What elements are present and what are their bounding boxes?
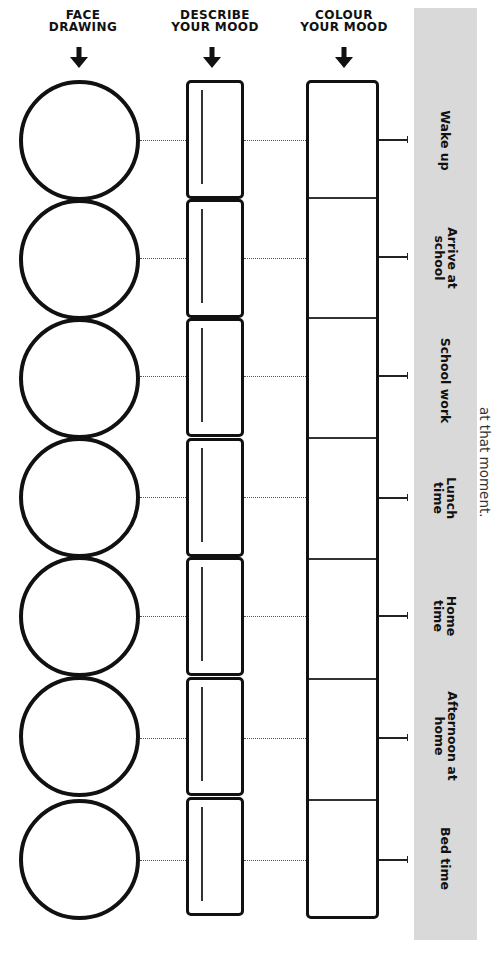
tick-line [379,256,408,258]
describe-mood-box-home-time[interactable] [186,557,244,676]
time-label-line: home [433,691,446,780]
time-label-lunch-time: Lunchtime [414,448,477,548]
down-arrow-icon [70,47,88,69]
face-drawing-circle-home-time[interactable] [19,556,140,677]
connector-line [244,616,306,617]
describe-mood-box-school-work[interactable] [186,318,244,437]
connector-line [244,140,306,141]
tick-line [379,375,408,377]
connector-line [140,258,186,259]
connector-line [140,616,186,617]
writing-line [201,90,203,184]
time-label-bed-time: Bed time [414,808,477,908]
tick-line [379,859,408,861]
colour-divider [309,678,376,680]
describe-mood-box-bed-time[interactable] [186,797,244,916]
face-drawing-circle-school-work[interactable] [19,318,140,439]
side-note-text: at that moment. [477,407,493,518]
time-label-line: Home [446,596,459,637]
face-drawing-circle-afternoon-at-home[interactable] [19,676,140,797]
time-label-line: Bed time [439,826,452,889]
connector-line [140,497,186,498]
describe-mood-box-arrive-at-school[interactable] [186,199,244,318]
header-describe-mood: DESCRIBE YOUR MOOD [156,9,274,33]
tick-line [379,497,408,499]
tick-line [379,737,408,739]
time-label-line: Afternoon at [446,691,459,780]
connector-line [140,860,186,861]
connector-line [244,860,306,861]
time-label-arrive-at-school: Arrive atschool [414,208,477,308]
header-line: YOUR MOOD [288,21,400,33]
tick-line [379,139,408,141]
time-label-home-time: Hometime [414,566,477,666]
header-line: YOUR MOOD [156,21,274,33]
header-line: DRAWING [40,21,126,33]
writing-line [201,567,203,661]
time-label-school-work: School work [414,330,477,430]
face-drawing-circle-lunch-time[interactable] [19,437,140,558]
colour-divider [309,558,376,560]
colour-divider [309,197,376,199]
connector-line [244,738,306,739]
time-label-line: Wake up [439,110,452,170]
header-face-drawing: FACE DRAWING [40,9,126,33]
face-drawing-circle-arrive-at-school[interactable] [19,199,140,320]
describe-mood-box-lunch-time[interactable] [186,438,244,557]
connector-line [140,376,186,377]
writing-line [201,328,203,422]
time-of-day-band: Wake up Arrive atschool School work Lunc… [414,8,477,940]
down-arrow-icon [335,47,353,69]
time-label-line: School work [439,337,452,423]
time-label-wake-up: Wake up [414,90,477,190]
face-drawing-circle-wake-up[interactable] [19,80,140,201]
time-label-line: Arrive at [446,227,459,289]
down-arrow-icon [203,47,221,69]
time-label-line: Lunch [445,477,458,519]
face-drawing-circle-bed-time[interactable] [19,799,140,920]
time-label-line: time [433,596,446,637]
connector-line [244,376,306,377]
connector-line [140,140,186,141]
writing-line [201,687,203,781]
header-colour-mood: COLOUR YOUR MOOD [288,9,400,33]
writing-line [201,209,203,303]
connector-line [244,497,306,498]
connector-line [244,258,306,259]
describe-mood-box-afternoon-at-home[interactable] [186,677,244,796]
time-label-afternoon-at-home: Afternoon athome [414,686,477,786]
writing-line [201,807,203,901]
colour-divider [309,317,376,319]
connector-line [140,738,186,739]
time-label-line: school [433,227,446,289]
describe-mood-box-wake-up[interactable] [186,80,244,199]
colour-divider [309,437,376,439]
time-label-line: time [432,477,445,519]
colour-divider [309,799,376,801]
writing-line [201,448,203,542]
colour-mood-column[interactable] [306,80,379,919]
tick-line [379,615,408,617]
